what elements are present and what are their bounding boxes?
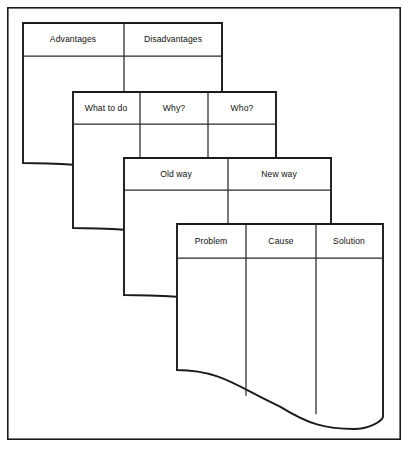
card-what-to-do-column-label-3: Who? (231, 103, 254, 113)
card-old-way-column-label-2: New way (261, 169, 297, 179)
card-what-to-do-column-label-2: Why? (163, 103, 185, 113)
cascading-flipchart-diagram: AdvantagesDisadvantagesWhat to doWhy?Who… (0, 0, 411, 452)
card-problem-column-label-1: Problem (195, 236, 228, 246)
card-problem-column-label-3: Solution (333, 236, 365, 246)
card-advantages-column-label-1: Advantages (50, 34, 96, 44)
card-old-way-column-label-1: Old way (160, 169, 192, 179)
card-advantages-column-label-2: Disadvantages (144, 34, 202, 44)
card-what-to-do-column-label-1: What to do (85, 103, 128, 113)
card-problem-column-label-2: Cause (268, 236, 293, 246)
diagram-canvas: AdvantagesDisadvantagesWhat to doWhy?Who… (0, 0, 411, 452)
